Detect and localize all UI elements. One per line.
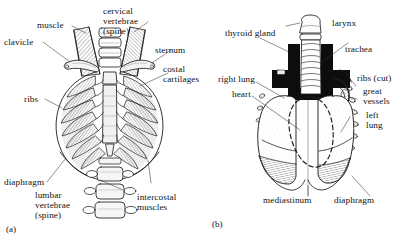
label-trachea: trachea [345, 44, 372, 54]
label-clavicle: clavicle [4, 37, 33, 47]
label-diaphragm-a: diaphragm [4, 177, 44, 187]
label-ribs: ribs [24, 94, 38, 104]
label-muscle: muscle [37, 20, 64, 30]
label-ribs-cut: ribs (cut) [357, 73, 391, 83]
label-left-lung: left lung [366, 110, 383, 130]
larynx [300, 15, 321, 40]
anatomy-figure: muscle cervical vertebrae (spine) clavic… [0, 0, 405, 244]
left-lung [318, 96, 354, 183]
right-lung [258, 96, 296, 184]
panel-label-b: (b) [212, 219, 223, 229]
label-mediastinum: mediastinum [263, 195, 312, 205]
label-intercostal-muscles: intercostal muscles [137, 192, 176, 212]
lumbar-vertebrae [83, 158, 137, 218]
label-right-lung: right lung [218, 74, 255, 84]
label-thyroid-gland: thyroid gland [225, 28, 276, 38]
label-cervical-vertebrae: cervical vertebrae (spine) [103, 6, 138, 37]
label-heart: heart [232, 89, 251, 99]
label-larynx: larynx [332, 18, 356, 28]
label-great-vessels: great vessels [363, 86, 390, 106]
label-sternum: sternum [155, 45, 185, 55]
label-costal-cartilages: costal cartilages [163, 64, 199, 84]
panel-b-drawing [252, 15, 370, 196]
panel-label-a: (a) [6, 224, 16, 234]
panel-a-drawing [43, 22, 171, 218]
label-diaphragm-b: diaphragm [334, 195, 374, 205]
trachea [301, 40, 321, 94]
label-lumbar-vertebrae: lumbar vertebrae (spine) [35, 190, 70, 221]
sternum [103, 72, 117, 156]
